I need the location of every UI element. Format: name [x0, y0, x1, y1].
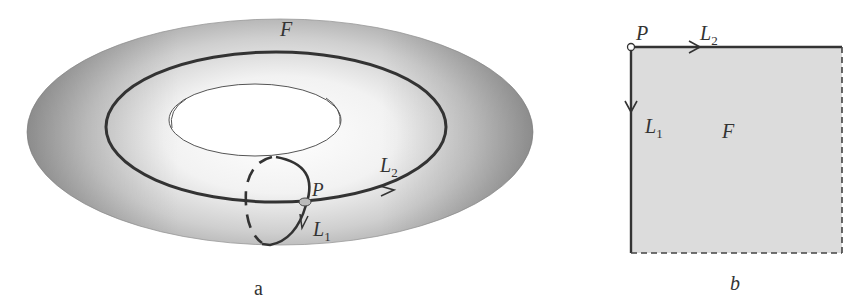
caption-a: a — [254, 277, 263, 299]
label-l2-square: L2 — [699, 22, 718, 48]
torus-hole — [169, 84, 341, 156]
figure-a-torus: F P L2 L1 a — [27, 18, 533, 299]
diagram-canvas: F P L2 L1 a P L2 L1 F b — [0, 0, 868, 305]
label-p-square: P — [635, 22, 648, 44]
point-p-marker — [299, 198, 311, 206]
label-f-square: F — [721, 120, 735, 142]
label-p-torus: P — [311, 179, 324, 200]
label-f-torus: F — [279, 18, 293, 40]
figure-b-square: P L2 L1 F b — [625, 22, 842, 294]
square-surface — [631, 47, 842, 253]
point-p-marker-square — [628, 44, 635, 51]
caption-b: b — [730, 272, 740, 294]
